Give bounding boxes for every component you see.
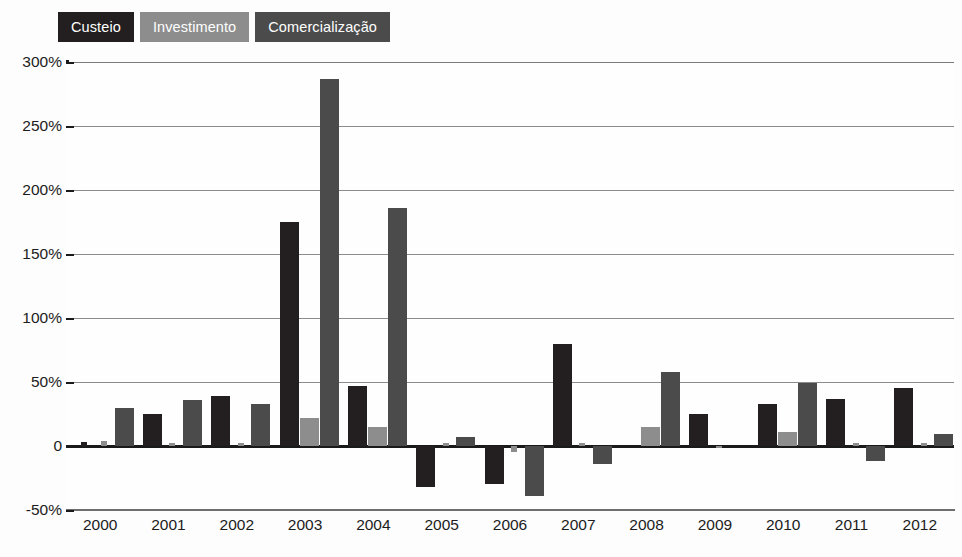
y-tick-mark-300 xyxy=(66,62,74,64)
y-tick-mark-150 xyxy=(66,254,74,256)
y-tick-label-250: 250% xyxy=(4,117,62,135)
x-tick-label-2010: 2010 xyxy=(766,516,800,534)
bar-2008-comercializa-o[interactable] xyxy=(661,372,680,446)
bar-2005-investimento[interactable] xyxy=(443,443,449,446)
bar-2012-custeio[interactable] xyxy=(894,388,913,446)
y-axis-tick-labels: 300%250%200%150%100%50%0-50% xyxy=(0,0,62,557)
bar-2000-custeio[interactable] xyxy=(81,442,87,446)
legend-item-label: Custeio xyxy=(71,19,121,35)
bar-2002-custeio[interactable] xyxy=(211,396,230,446)
bar-2010-investimento[interactable] xyxy=(778,432,797,446)
bar-2005-comercializa-o[interactable] xyxy=(456,437,475,446)
bar-series-container xyxy=(66,62,954,510)
bar-2009-custeio[interactable] xyxy=(689,414,708,446)
legend-item-label: Comercialização xyxy=(268,19,377,35)
y-tick-mark-50 xyxy=(66,382,74,384)
bar-2009-investimento[interactable] xyxy=(716,446,722,448)
y-tick-label--50: -50% xyxy=(4,501,62,519)
bar-2001-investimento[interactable] xyxy=(169,443,175,446)
x-tick-label-2009: 2009 xyxy=(698,516,732,534)
x-tick-label-2001: 2001 xyxy=(151,516,185,534)
y-tick-mark-0 xyxy=(66,446,74,448)
bar-2011-investimento[interactable] xyxy=(853,443,859,446)
chart-page: CusteioInvestimentoComercialização 300%2… xyxy=(0,0,962,557)
y-tick-label-100: 100% xyxy=(4,309,62,327)
bar-2007-comercializa-o[interactable] xyxy=(593,446,612,464)
bar-2012-investimento[interactable] xyxy=(921,443,927,446)
x-axis-line xyxy=(66,509,955,511)
x-tick-label-2011: 2011 xyxy=(835,516,868,534)
bar-2004-custeio[interactable] xyxy=(348,386,367,446)
y-tick-label-300: 300% xyxy=(4,53,62,71)
bar-2012-comercializa-o[interactable] xyxy=(934,434,953,446)
chart-legend: CusteioInvestimentoComercialização xyxy=(58,12,390,42)
plot-area xyxy=(66,62,954,510)
legend-item-investimento[interactable]: Investimento xyxy=(140,12,249,42)
bar-2003-investimento[interactable] xyxy=(300,418,319,446)
x-tick-label-2006: 2006 xyxy=(493,516,527,534)
bar-2004-investimento[interactable] xyxy=(368,427,387,446)
y-tick-mark-200 xyxy=(66,190,74,192)
legend-item-comercializa-o[interactable]: Comercialização xyxy=(255,12,390,42)
bar-2010-comercializa-o[interactable] xyxy=(798,383,817,446)
x-tick-label-2012: 2012 xyxy=(903,516,937,534)
legend-item-custeio[interactable]: Custeio xyxy=(58,12,134,42)
bar-2001-custeio[interactable] xyxy=(143,414,162,446)
y-tick-mark--50 xyxy=(66,510,74,512)
y-tick-mark-250 xyxy=(66,126,74,128)
bar-2006-custeio[interactable] xyxy=(485,446,504,484)
legend-item-label: Investimento xyxy=(153,19,236,35)
bar-2003-comercializa-o[interactable] xyxy=(320,79,339,446)
x-tick-label-2005: 2005 xyxy=(424,516,458,534)
bar-2010-custeio[interactable] xyxy=(758,404,777,446)
bar-2000-investimento[interactable] xyxy=(101,441,107,446)
x-tick-label-2000: 2000 xyxy=(83,516,117,534)
y-tick-label-200: 200% xyxy=(4,181,62,199)
bar-2006-comercializa-o[interactable] xyxy=(525,446,544,496)
bar-2011-custeio[interactable] xyxy=(826,399,845,446)
x-tick-label-2008: 2008 xyxy=(629,516,663,534)
bar-2003-custeio[interactable] xyxy=(280,222,299,446)
bar-2006-investimento[interactable] xyxy=(511,446,517,452)
y-tick-label-50: 50% xyxy=(4,373,62,391)
bar-2000-comercializa-o[interactable] xyxy=(115,408,134,446)
x-tick-label-2007: 2007 xyxy=(561,516,595,534)
bar-2001-comercializa-o[interactable] xyxy=(183,400,202,446)
bar-2008-investimento[interactable] xyxy=(641,427,660,446)
bar-2004-comercializa-o[interactable] xyxy=(388,208,407,446)
bar-2011-comercializa-o[interactable] xyxy=(866,446,885,461)
x-tick-label-2003: 2003 xyxy=(288,516,322,534)
bar-2002-investimento[interactable] xyxy=(238,443,244,446)
x-tick-label-2004: 2004 xyxy=(356,516,390,534)
bar-2007-investimento[interactable] xyxy=(579,443,585,446)
bar-2002-comercializa-o[interactable] xyxy=(251,404,270,446)
bar-2005-custeio[interactable] xyxy=(416,446,435,487)
y-tick-label-150: 150% xyxy=(4,245,62,263)
x-tick-label-2002: 2002 xyxy=(220,516,254,534)
y-tick-label-0: 0 xyxy=(4,437,62,455)
bar-2007-custeio[interactable] xyxy=(553,344,572,446)
y-tick-mark-100 xyxy=(66,318,74,320)
x-axis-tick-labels: 2000200120022003200420052006200720082009… xyxy=(66,516,955,544)
